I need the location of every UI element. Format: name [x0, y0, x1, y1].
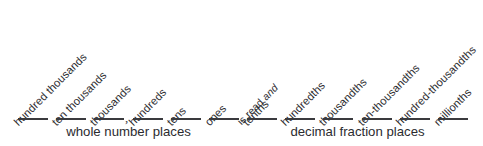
place-slot-ten-thousandths [362, 118, 392, 120]
place-slot-hundredths [285, 118, 315, 120]
group-caption-whole-number-places: whole number places [18, 124, 239, 139]
place-slot-tens [171, 118, 201, 120]
group-caption-decimal-fraction-places: decimal fraction places [247, 124, 468, 139]
place-slot-thousands [94, 118, 124, 120]
place-value-chart: , . hundred thousands ten thousands thou… [0, 0, 483, 146]
place-slot-hundred-thousandths [400, 118, 430, 120]
place-slot-thousandths [323, 118, 353, 120]
place-slot-millionths [438, 118, 468, 120]
place-label-hundred-thousands: hundred thousands [12, 51, 89, 128]
place-slot-ones [209, 118, 239, 120]
place-slot-hundred-thousands [18, 118, 48, 120]
place-label-hundreds: hundreds [126, 86, 168, 128]
place-slot-tenths [247, 118, 277, 120]
place-slot-hundreds [133, 118, 163, 120]
place-slot-ten-thousands [56, 118, 86, 120]
